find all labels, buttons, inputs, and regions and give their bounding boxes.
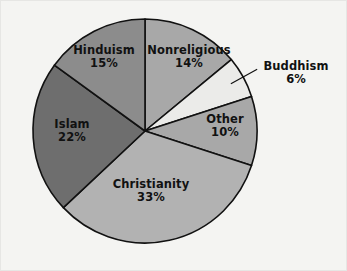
slice-label-buddhism: Buddhism 6% [250, 60, 342, 86]
slice-label-islam-value: 22% [34, 131, 110, 144]
slice-label-christianity: Christianity 33% [96, 178, 206, 204]
slice-label-islam: Islam 22% [34, 118, 110, 144]
slice-label-christianity-name: Christianity [96, 178, 206, 191]
slice-label-islam-name: Islam [34, 118, 110, 131]
slice-label-buddhism-name: Buddhism [250, 60, 342, 73]
slice-label-other-value: 10% [190, 126, 260, 139]
slice-label-hinduism-name: Hinduism [60, 44, 148, 57]
slice-label-nonreligious: Nonreligious 14% [143, 44, 235, 70]
slice-label-buddhism-value: 6% [250, 73, 342, 86]
slice-label-other-name: Other [190, 113, 260, 126]
slice-label-hinduism: Hinduism 15% [60, 44, 148, 70]
pie-chart-figure: Hinduism 15% Nonreligious 14% Buddhism 6… [0, 0, 347, 271]
slice-label-hinduism-value: 15% [60, 57, 148, 70]
slice-label-nonreligious-name: Nonreligious [143, 44, 235, 57]
slice-label-other: Other 10% [190, 113, 260, 139]
slice-label-christianity-value: 33% [96, 191, 206, 204]
slice-label-nonreligious-value: 14% [143, 57, 235, 70]
